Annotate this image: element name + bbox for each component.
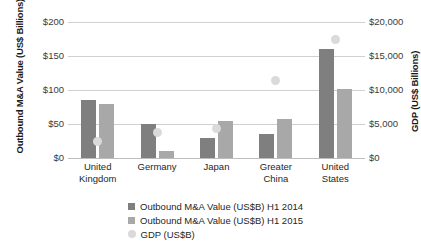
y-axis-left-ticks: $0$50$100$150$200 bbox=[28, 22, 64, 158]
gdp-data-point bbox=[93, 137, 102, 146]
y-axis-right-tick-label: $5,000 bbox=[369, 119, 398, 129]
x-axis-category-label: Greater China bbox=[246, 161, 305, 185]
chart-legend: Outbound M&A Value (US$B) H1 2014Outboun… bbox=[128, 199, 358, 241]
y-axis-left-tick-label: $150 bbox=[43, 51, 64, 61]
y-axis-left-tick-label: $50 bbox=[48, 119, 64, 129]
legend-square-icon bbox=[128, 203, 135, 210]
bar-group bbox=[187, 22, 246, 158]
plot-area bbox=[68, 22, 365, 158]
x-axis-category-label: United Kingdom bbox=[68, 161, 127, 185]
legend-item[interactable]: Outbound M&A Value (US$B) H1 2014 bbox=[128, 199, 358, 213]
gdp-data-point bbox=[331, 35, 340, 44]
legend-label: Outbound M&A Value (US$B) H1 2015 bbox=[140, 215, 303, 226]
y-axis-right-tick-label: $10,000 bbox=[369, 85, 403, 95]
bar-2014 bbox=[319, 49, 334, 158]
gdp-data-point bbox=[153, 128, 162, 137]
bar-2015 bbox=[159, 151, 174, 158]
bar-group bbox=[246, 22, 305, 158]
gdp-data-point bbox=[271, 76, 280, 85]
x-axis-category-labels: United KingdomGermanyJapanGreater ChinaU… bbox=[68, 161, 365, 195]
x-axis-category-label: Japan bbox=[187, 161, 246, 173]
y-axis-right-tick-label: $20,000 bbox=[369, 17, 403, 27]
bar-group bbox=[306, 22, 365, 158]
bar-group bbox=[127, 22, 186, 158]
legend-label: GDP (US$B) bbox=[141, 229, 195, 240]
bar-2015 bbox=[99, 104, 114, 158]
legend-item[interactable]: Outbound M&A Value (US$B) H1 2015 bbox=[128, 213, 358, 227]
legend-square-icon bbox=[128, 217, 135, 224]
x-axis-category-label: United States bbox=[306, 161, 365, 185]
y-axis-left-tick-label: $0 bbox=[53, 153, 64, 163]
axis-baseline bbox=[68, 158, 365, 159]
y-axis-left-tick-label: $200 bbox=[43, 17, 64, 27]
y-axis-left-tick-label: $100 bbox=[43, 85, 64, 95]
y-axis-right-tick-label: $15,000 bbox=[369, 51, 403, 61]
x-axis-category-label: Germany bbox=[127, 161, 186, 173]
bar-2014 bbox=[81, 100, 96, 158]
bar-2015 bbox=[337, 89, 352, 158]
y-axis-left-title: Outbound M&A Value (US$ Billions) bbox=[14, 14, 25, 154]
y-axis-right-ticks: $0$5,000$10,000$15,000$20,000 bbox=[369, 22, 415, 158]
legend-label: Outbound M&A Value (US$B) H1 2014 bbox=[140, 201, 303, 212]
legend-item[interactable]: GDP (US$B) bbox=[128, 227, 358, 241]
bar-2015 bbox=[277, 119, 292, 158]
bar-group bbox=[68, 22, 127, 158]
chart-container: Outbound M&A Value (US$ Billions) GDP (U… bbox=[0, 0, 421, 252]
y-axis-right-tick-label: $0 bbox=[369, 153, 380, 163]
bar-2014 bbox=[259, 134, 274, 158]
bar-2014 bbox=[200, 138, 215, 158]
legend-circle-icon bbox=[128, 230, 136, 238]
